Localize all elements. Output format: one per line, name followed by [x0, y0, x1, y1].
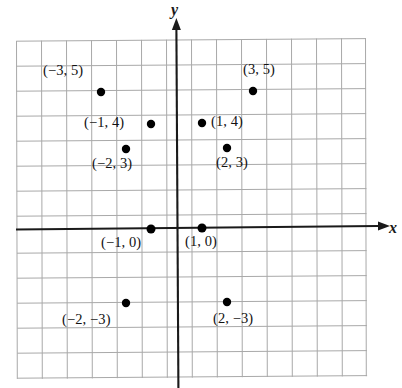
data-point	[122, 145, 130, 153]
point-label-2-neg3: (2, −3)	[213, 310, 253, 327]
point-label-1-4: (1, 4)	[211, 113, 243, 130]
point-label-1-0: (1, 0)	[185, 233, 217, 250]
y-axis-label: y	[171, 1, 178, 19]
x-axis-label: x	[389, 219, 397, 237]
y-axis-arrowhead	[172, 18, 181, 30]
point-label-neg1-4: (−1, 4)	[84, 114, 124, 131]
data-point	[147, 120, 155, 128]
point-label-neg2-neg3: (−2, −3)	[62, 311, 111, 328]
coordinate-plane-figure: y x (−3, 5) (3, 5) (−1, 4) (1, 4) (−2, 3…	[0, 0, 402, 388]
point-label-neg2-3: (−2, 3)	[92, 155, 132, 172]
point-label-neg3-5: (−3, 5)	[43, 62, 83, 79]
data-point	[147, 225, 156, 234]
coordinate-plane-svg	[0, 0, 402, 388]
data-point	[97, 88, 105, 96]
point-label-neg1-0: (−1, 0)	[101, 234, 141, 251]
point-label-3-5: (3, 5)	[243, 61, 275, 78]
point-label-2-3: (2, 3)	[216, 154, 248, 171]
data-point	[122, 299, 130, 307]
data-point	[223, 298, 231, 306]
data-point	[198, 119, 206, 127]
data-point	[223, 144, 231, 152]
y-axis	[172, 18, 181, 388]
data-point	[198, 224, 207, 233]
data-point	[249, 87, 257, 95]
